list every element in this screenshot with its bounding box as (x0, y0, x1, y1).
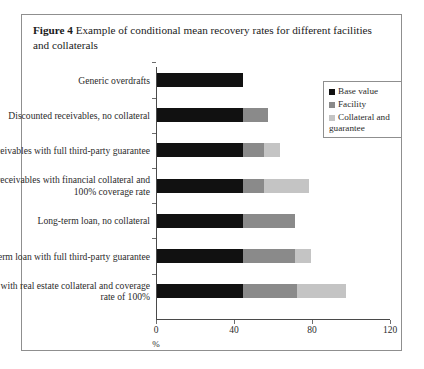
y-tick (152, 238, 156, 239)
legend-item: Base value (329, 86, 401, 97)
bar-segment (243, 179, 264, 193)
y-tick (152, 203, 156, 204)
category-label: Discounted receivables with full third-p… (0, 145, 150, 156)
bar-segment (157, 73, 243, 87)
figure-caption: Figure 4 Example of conditional mean rec… (33, 23, 383, 52)
legend-label: Facility (338, 99, 366, 109)
category-label: Mortgage loan with real estate collatera… (0, 280, 150, 303)
bar-segment (295, 249, 311, 263)
legend-swatch (329, 102, 335, 108)
legend-label: Base value (338, 86, 378, 96)
y-tick (152, 274, 156, 275)
legend-label: Collateral and guarantee (329, 112, 390, 133)
x-tick (156, 320, 157, 324)
x-tick (312, 320, 313, 324)
category-label: Discounted receivables, no collateral (0, 110, 150, 121)
legend-swatch (329, 115, 335, 121)
y-tick (152, 133, 156, 134)
bar-segment (264, 143, 280, 157)
bar-segment (157, 143, 243, 157)
bar-segment (157, 179, 243, 193)
category-label: Long-term loan, no collateral (0, 215, 150, 226)
y-tick (152, 62, 156, 63)
y-tick (152, 98, 156, 99)
chart-plot-area: 04080120 Generic overdraftsDiscounted re… (22, 63, 403, 351)
bar-segment (157, 214, 243, 228)
bar-segment (243, 214, 296, 228)
bar-segment (264, 179, 309, 193)
bar-segment (297, 284, 346, 298)
x-tick-label: 40 (214, 325, 254, 335)
x-axis-line (156, 319, 390, 320)
x-axis-title: % (136, 339, 176, 349)
bar-segment (157, 249, 243, 263)
x-tick (390, 320, 391, 324)
x-tick-label: 0 (136, 325, 176, 335)
category-label: Generic overdrafts (0, 75, 150, 86)
legend-item: Facility (329, 99, 401, 110)
y-tick (152, 168, 156, 169)
bar-segment (243, 249, 296, 263)
x-tick (234, 320, 235, 324)
bar-segment (243, 108, 268, 122)
category-label: Discounted receivables with financial co… (0, 174, 150, 197)
figure-frame: Figure 4 Example of conditional mean rec… (21, 14, 402, 351)
x-tick-label: 120 (370, 325, 410, 335)
bar-segment (157, 284, 243, 298)
x-tick-label: 80 (292, 325, 332, 335)
figure-caption-label: Figure 4 (33, 24, 73, 36)
bar-segment (243, 284, 298, 298)
bar-segment (157, 108, 243, 122)
chart-legend: Base valueFacilityCollateral and guarant… (323, 81, 402, 138)
legend-swatch (329, 89, 335, 95)
legend-item: Collateral and guarantee (329, 112, 401, 135)
bar-segment (243, 143, 264, 157)
figure-caption-text: Example of conditional mean recovery rat… (33, 24, 372, 51)
category-label: Long- term loan with full third-party gu… (0, 251, 150, 262)
y-axis-line (156, 67, 157, 319)
